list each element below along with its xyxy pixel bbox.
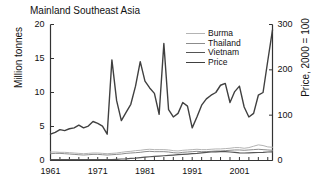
- y-axis-right-tick-label: 0: [278, 155, 304, 165]
- y-axis-left-tick-label: 0: [23, 155, 45, 165]
- y-axis-left-tick-label: 10: [23, 87, 45, 97]
- x-axis-tick-label: 1991: [175, 166, 209, 176]
- legend-item-price[interactable]: Price: [186, 58, 241, 68]
- y-axis-left-tick-label: 5: [23, 121, 45, 131]
- legend-swatch-icon: [186, 33, 205, 34]
- x-axis-tick-label: 1981: [128, 166, 162, 176]
- y-axis-right-tick-label: 100: [278, 110, 304, 120]
- y-axis-right-tick-label: 200: [278, 64, 304, 74]
- x-axis-tick-label: 2001: [222, 166, 256, 176]
- y-axis-left-tick-label: 15: [23, 53, 45, 63]
- chart-title: Mainland Southeast Asia: [30, 5, 140, 17]
- series-line-thailand: [51, 149, 273, 155]
- x-axis-tick-label: 1961: [34, 166, 68, 176]
- chart-legend: BurmaThailandVietnamPrice: [186, 29, 241, 67]
- x-axis-tick-label: 1971: [81, 166, 115, 176]
- plot-area: [0, 0, 322, 193]
- legend-swatch-icon: [186, 52, 205, 53]
- legend-swatch-icon: [186, 43, 205, 44]
- y-axis-right-tick-label: 300: [278, 19, 304, 29]
- legend-label: Price: [208, 58, 227, 68]
- y-axis-left-tick-label: 20: [23, 19, 45, 29]
- legend-swatch-icon: [186, 62, 205, 63]
- chart-container: Mainland Southeast Asia Million tonnes P…: [0, 0, 322, 193]
